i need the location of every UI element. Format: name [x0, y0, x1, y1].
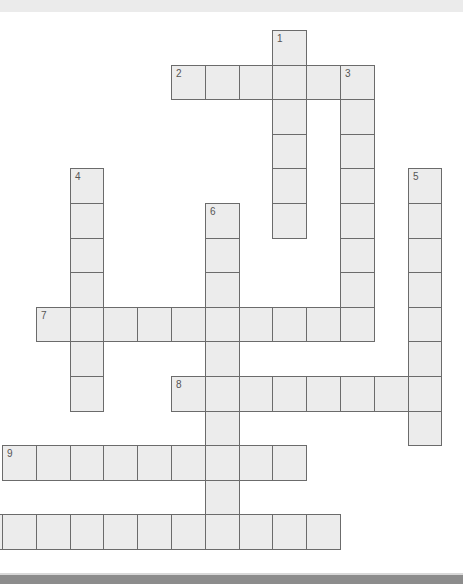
bottom-status-band: [0, 575, 463, 584]
clue-number: 1: [277, 33, 283, 45]
crossword-cell[interactable]: [137, 445, 172, 481]
crossword-cell[interactable]: [408, 272, 442, 308]
crossword-cell[interactable]: [171, 307, 206, 342]
crossword-cell[interactable]: [272, 99, 307, 135]
crossword-cell[interactable]: [70, 272, 104, 308]
crossword-cell[interactable]: [340, 307, 375, 342]
crossword-cell[interactable]: [171, 514, 206, 550]
clue-number: 4: [75, 171, 81, 183]
crossword-cell[interactable]: [306, 376, 341, 412]
crossword-cell[interactable]: [205, 272, 240, 308]
crossword-cell[interactable]: 6: [205, 203, 240, 239]
crossword-cell[interactable]: 8: [171, 376, 206, 412]
crossword-cell[interactable]: [205, 65, 240, 100]
crossword-cell[interactable]: [205, 514, 240, 550]
crossword-cell[interactable]: [36, 514, 71, 550]
crossword-cell[interactable]: [306, 514, 341, 550]
clue-number: 9: [7, 448, 13, 460]
crossword-cell[interactable]: [205, 376, 240, 412]
clue-number: 7: [41, 310, 47, 322]
crossword-cell[interactable]: [205, 341, 240, 377]
crossword-cell[interactable]: [36, 445, 71, 481]
crossword-cell[interactable]: [239, 65, 273, 100]
crossword-cell[interactable]: [70, 376, 104, 412]
crossword-cell[interactable]: [205, 411, 240, 446]
crossword-cell[interactable]: 7: [36, 307, 71, 342]
crossword-cell[interactable]: [70, 341, 104, 377]
crossword-cell[interactable]: [272, 307, 307, 342]
crossword-cell[interactable]: [2, 514, 37, 550]
crossword-cell[interactable]: [340, 272, 375, 308]
crossword-cell[interactable]: [340, 168, 375, 204]
crossword-cell[interactable]: 1: [272, 30, 307, 66]
crossword-cell[interactable]: [272, 376, 307, 412]
crossword-cell[interactable]: [306, 65, 341, 100]
crossword-cell[interactable]: [340, 99, 375, 135]
crossword-cell[interactable]: [239, 307, 273, 342]
crossword-cell[interactable]: [272, 203, 307, 239]
clue-number: 5: [413, 171, 419, 183]
crossword-cell[interactable]: 5: [408, 168, 442, 204]
clue-number: 2: [176, 68, 182, 80]
crossword-cell[interactable]: [374, 376, 409, 412]
crossword-cell[interactable]: 3: [340, 65, 375, 100]
crossword-cell[interactable]: [272, 134, 307, 169]
crossword-cell[interactable]: [272, 514, 307, 550]
crossword-cell[interactable]: [306, 307, 341, 342]
crossword-cell[interactable]: [239, 514, 273, 550]
crossword-cell[interactable]: [340, 203, 375, 239]
crossword-cell[interactable]: [408, 411, 442, 446]
crossword-cell[interactable]: [103, 307, 138, 342]
crossword-cell[interactable]: [70, 307, 104, 342]
crossword-cell[interactable]: [137, 307, 172, 342]
crossword-cell[interactable]: [70, 445, 104, 481]
crossword-cell[interactable]: [272, 445, 307, 481]
crossword-cell[interactable]: [239, 376, 273, 412]
clue-number: 6: [210, 206, 216, 218]
crossword-grid: 123456789: [0, 0, 463, 584]
crossword-cell[interactable]: 2: [171, 65, 206, 100]
crossword-cell[interactable]: [408, 376, 442, 412]
crossword-cell[interactable]: [205, 445, 240, 481]
crossword-cell[interactable]: [103, 445, 138, 481]
crossword-cell[interactable]: 9: [2, 445, 37, 481]
crossword-cell[interactable]: [340, 238, 375, 273]
crossword-cell[interactable]: 4: [70, 168, 104, 204]
crossword-cell[interactable]: [408, 238, 442, 273]
crossword-cell[interactable]: [205, 480, 240, 515]
clue-number: 8: [176, 379, 182, 391]
crossword-cell[interactable]: [272, 65, 307, 100]
crossword-cell[interactable]: [171, 445, 206, 481]
crossword-cell[interactable]: [408, 341, 442, 377]
crossword-cell[interactable]: [408, 203, 442, 239]
crossword-cell[interactable]: [205, 307, 240, 342]
clue-number: 3: [345, 68, 351, 80]
crossword-cell[interactable]: [70, 514, 104, 550]
crossword-cell[interactable]: [340, 376, 375, 412]
crossword-cell[interactable]: [137, 514, 172, 550]
crossword-cell[interactable]: [103, 514, 138, 550]
crossword-cell[interactable]: [70, 238, 104, 273]
crossword-cell[interactable]: [239, 445, 273, 481]
crossword-cell[interactable]: [272, 168, 307, 204]
crossword-cell[interactable]: [408, 307, 442, 342]
crossword-cell[interactable]: [70, 203, 104, 239]
crossword-cell[interactable]: [340, 134, 375, 169]
crossword-cell[interactable]: [205, 238, 240, 273]
